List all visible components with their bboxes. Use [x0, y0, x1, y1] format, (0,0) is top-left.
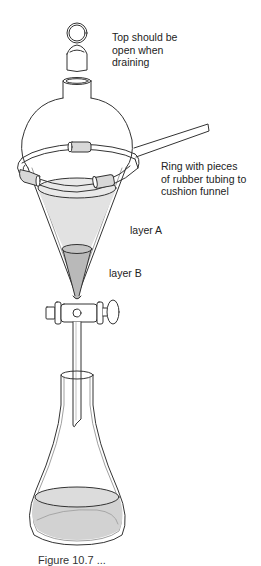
- funnel-bulb: [22, 98, 133, 168]
- figure-caption: Figure 10.7 ...: [38, 554, 106, 566]
- label-layer-a: layer A: [130, 224, 162, 237]
- label-layer-b: layer B: [109, 267, 142, 280]
- label-line: cushion funnel: [161, 185, 246, 198]
- funnel-stem: [73, 322, 81, 427]
- stopper: [67, 23, 87, 72]
- label-line: Ring with pieces: [161, 160, 246, 173]
- label-line: of rubber tubing to: [161, 173, 246, 186]
- label-ring: Ring with pieces of rubber tubing to cus…: [161, 160, 246, 198]
- label-line: open when: [112, 44, 177, 57]
- support-rod: [134, 124, 209, 157]
- label-line: Top should be: [112, 31, 177, 44]
- stopcock[interactable]: [46, 296, 119, 324]
- label-top-open: Top should be open when draining: [112, 31, 177, 69]
- funnel-neck: [63, 78, 91, 99]
- label-line: draining: [112, 56, 177, 69]
